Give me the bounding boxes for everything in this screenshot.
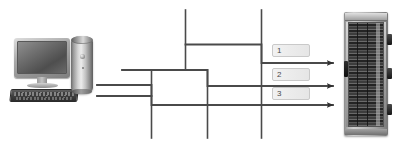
diagram-canvas: 1 2 3 (0, 0, 402, 147)
rack-base-plinth (345, 129, 387, 135)
rack-side-tab-middle (387, 68, 392, 79)
rack-side-tab-bottom (387, 104, 392, 115)
rack-side-tab-top (387, 34, 392, 45)
callout-label-2[interactable]: 2 (272, 68, 310, 81)
rack-door-handle (344, 61, 348, 77)
cable-routing (0, 0, 402, 147)
callout-label-1[interactable]: 1 (272, 44, 310, 57)
rack-bay-dividers (349, 23, 383, 126)
rack-top-panel (345, 13, 387, 21)
callout-label-3[interactable]: 3 (272, 87, 310, 100)
rack-front-face (348, 22, 384, 127)
server-rack (344, 12, 388, 136)
rack-rail-right (384, 22, 386, 127)
cable-1-path (186, 45, 334, 64)
